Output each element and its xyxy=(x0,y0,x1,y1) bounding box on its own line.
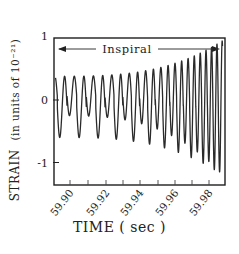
x-tick-label: 59.98 xyxy=(187,187,215,218)
x-tick-label: 59.92 xyxy=(84,187,112,218)
y-axis-ticks: 10-1 xyxy=(37,30,59,170)
y-tick-label: -1 xyxy=(37,157,48,170)
annotation-label: Inspiral xyxy=(102,42,152,56)
x-tick-label: 59.96 xyxy=(153,187,181,218)
y-tick-label: 0 xyxy=(41,94,48,107)
inspiral-annotation: Inspiral xyxy=(58,42,220,56)
y-axis-label: STRAIN (in units of 10⁻²¹) xyxy=(2,20,28,220)
arrow-left-icon xyxy=(58,46,66,52)
x-tick-label: 59.90 xyxy=(48,187,76,218)
x-tick-label: 59.94 xyxy=(118,187,146,218)
y-tick-label: 1 xyxy=(41,30,48,43)
strain-chart: 10-1 59.9059.9259.9459.9659.98 Inspiral xyxy=(0,0,239,254)
y-axis-title: STRAIN xyxy=(8,149,22,201)
x-axis-label: TIME ( sec ) xyxy=(0,219,239,235)
strain-waveform xyxy=(56,41,223,172)
y-axis-units: (in units of 10⁻²¹) xyxy=(9,39,21,141)
